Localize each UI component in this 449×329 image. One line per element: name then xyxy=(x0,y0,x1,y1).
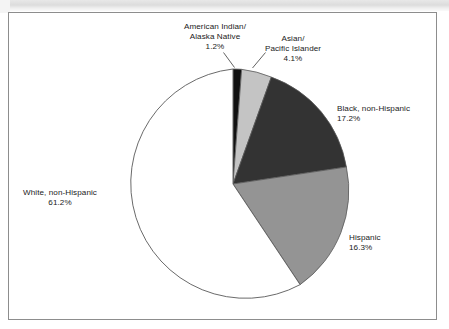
pie-label-line1: Asian/ xyxy=(282,34,305,43)
pie-label-line1: American Indian/ xyxy=(184,22,246,31)
pie-label-black-non-hispanic: Black, non-Hispanic 17.2% xyxy=(337,104,445,124)
pie-label-line2: Pacific Islander xyxy=(265,44,321,53)
pie-label-line2: Alaska Native xyxy=(190,32,241,41)
pie-label-line1: Black, non-Hispanic xyxy=(337,104,410,113)
pie-label-percent: 4.1% xyxy=(248,54,338,64)
pie-label-line1: Hispanic xyxy=(349,233,381,242)
leader-line-american-indian xyxy=(224,53,235,68)
pie-label-percent: 16.3% xyxy=(349,243,441,253)
pie-label-hispanic: Hispanic 16.3% xyxy=(349,233,441,253)
pie-label-percent: 17.2% xyxy=(337,114,445,124)
pie-label-asian-pacific-islander: Asian/ Pacific Islander 4.1% xyxy=(248,34,338,65)
pie-label-line1: White, non-Hispanic xyxy=(23,188,97,197)
pie-label-white-non-hispanic: White, non-Hispanic 61.2% xyxy=(8,188,112,208)
pie-label-percent: 61.2% xyxy=(8,198,112,208)
